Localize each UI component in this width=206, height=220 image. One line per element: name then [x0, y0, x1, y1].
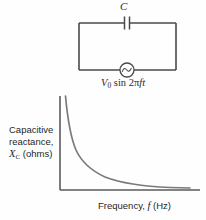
reactance-units: (ohms) [20, 148, 52, 159]
physics-figure-capacitive-reactance: C V0 sin 2πft Capacitive reactance, XC (… [0, 0, 206, 220]
y-axis-label-line3: XC (ohms) [9, 148, 53, 163]
x-axis-label: Frequency, f (Hz) [98, 200, 171, 211]
time-symbol: t [142, 77, 145, 88]
x-axis-label-prefix: Frequency, [98, 200, 147, 211]
ac-source-symbol [120, 63, 134, 77]
source-label-rest: sin 2π [111, 77, 139, 88]
capacitor-label: C [120, 1, 127, 13]
reactance-curve [66, 96, 191, 188]
circuit-diagram [79, 17, 176, 78]
y-axis-label-line2: reactance, [9, 136, 53, 148]
capacitor-symbol [125, 17, 130, 30]
ac-source-label: V0 sin 2πft [101, 77, 145, 90]
reactance-symbol: XC [9, 148, 20, 159]
y-axis-label-line1: Capacitive [9, 124, 53, 136]
figure-canvas [0, 0, 206, 220]
reactance-graph [60, 96, 200, 190]
x-axis-units: (Hz) [150, 200, 171, 211]
y-axis-label: Capacitive reactance, XC (ohms) [9, 124, 53, 163]
